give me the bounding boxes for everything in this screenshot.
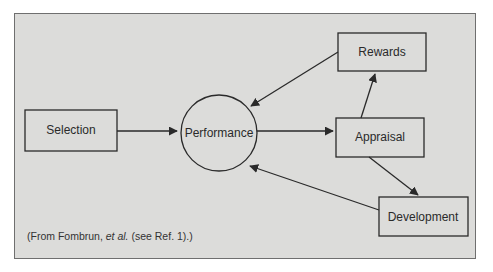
arrow-appraisal-to-development	[369, 157, 418, 195]
appraisal-label: Appraisal	[355, 130, 405, 144]
source-caption: (From Fombrun, et al. (see Ref. 1).)	[27, 230, 193, 242]
arrow-development-to-performance	[250, 166, 379, 210]
arrow-appraisal-to-rewards	[361, 74, 375, 118]
selection-node: Selection	[25, 110, 117, 151]
arrow-rewards-to-performance	[251, 52, 338, 106]
caption-prefix: (From Fombrun,	[27, 230, 106, 242]
selection-label: Selection	[46, 123, 95, 137]
performance-label: Performance	[185, 126, 254, 140]
caption-italic: et al.	[106, 230, 129, 242]
rewards-label: Rewards	[358, 45, 405, 59]
development-label: Development	[388, 210, 459, 224]
appraisal-node: Appraisal	[336, 118, 424, 157]
caption-suffix: (see Ref. 1).)	[129, 230, 193, 242]
development-node: Development	[379, 197, 468, 236]
performance-node: Performance	[181, 95, 257, 171]
rewards-node: Rewards	[338, 33, 426, 71]
